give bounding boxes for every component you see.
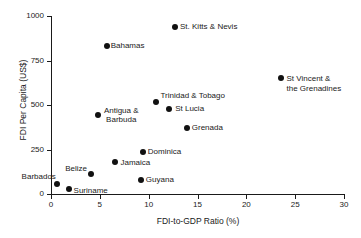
data-point-label: Grenada <box>192 123 223 133</box>
data-point-label: St Vincent &the Grenadines <box>287 74 342 93</box>
y-axis-tick <box>47 150 51 151</box>
data-point[interactable] <box>166 106 172 112</box>
data-point[interactable] <box>140 149 146 155</box>
data-point-label: Jamaica <box>120 159 150 169</box>
y-axis-tick-label: 0 <box>40 189 44 199</box>
data-point[interactable] <box>112 159 118 165</box>
y-axis-tick-label: 250 <box>31 145 44 155</box>
data-point-label: Bahamas <box>111 42 145 52</box>
y-axis-tick <box>47 61 51 62</box>
x-axis-tick <box>246 195 247 199</box>
x-axis-tick <box>149 195 150 199</box>
data-point-label: Antigua &Barbuda <box>104 105 139 124</box>
data-point[interactable] <box>184 125 190 131</box>
data-point-label: St Lucia <box>175 105 204 115</box>
x-axis-tick <box>295 195 296 199</box>
y-axis-line <box>51 16 52 195</box>
scatter-chart: 05101520253002505007501000St. Kitts & Ne… <box>0 0 361 238</box>
y-axis-tick <box>47 194 51 195</box>
y-axis-tick-label: 500 <box>31 100 44 110</box>
y-axis-tick-label: 750 <box>31 56 44 66</box>
data-point-label: Guyana <box>146 175 174 185</box>
data-point-label: St. Kitts & Nevis <box>180 22 237 32</box>
x-axis-tick <box>344 195 345 199</box>
data-point[interactable] <box>172 24 178 30</box>
x-axis-tick <box>198 195 199 199</box>
x-axis-tick-label: 20 <box>242 200 251 210</box>
x-axis-tick-label: 10 <box>144 200 153 210</box>
data-point[interactable] <box>88 171 94 177</box>
data-point[interactable] <box>138 177 144 183</box>
data-point[interactable] <box>153 99 159 105</box>
data-point[interactable] <box>95 112 101 118</box>
data-point[interactable] <box>278 75 284 81</box>
data-point-label: Suriname <box>74 186 108 196</box>
x-axis-title: FDI-to-GDP Ratio (%) <box>51 216 345 226</box>
x-axis-tick-label: 0 <box>49 200 53 210</box>
data-point[interactable] <box>66 186 72 192</box>
data-point[interactable] <box>104 43 110 49</box>
data-point-label: Trinidad & Tobago <box>160 92 225 102</box>
x-axis-tick-label: 30 <box>340 200 349 210</box>
y-axis-tick-label: 1000 <box>26 11 44 21</box>
x-axis-tick-label: 15 <box>193 200 202 210</box>
y-axis-title: FDI Per Capita (US$) <box>18 30 28 170</box>
x-axis-tick <box>51 195 52 199</box>
y-axis-tick <box>47 16 51 17</box>
x-axis-tick-label: 25 <box>291 200 300 210</box>
x-axis-tick <box>100 195 101 199</box>
data-point-label: Belize <box>65 165 87 175</box>
x-axis-tick-label: 5 <box>98 200 102 210</box>
data-point-label: Barbados <box>22 172 56 182</box>
data-point[interactable] <box>54 181 60 187</box>
y-axis-tick <box>47 105 51 106</box>
data-point-label: Dominica <box>148 147 181 157</box>
